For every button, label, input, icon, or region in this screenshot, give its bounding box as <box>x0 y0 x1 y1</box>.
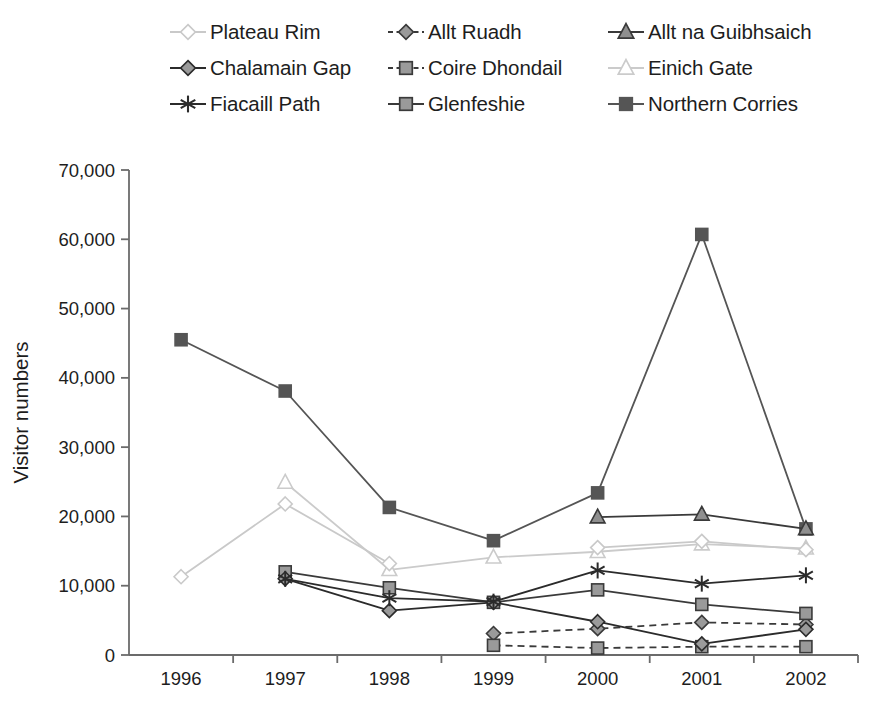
series-line <box>181 234 806 540</box>
data-point <box>592 642 604 654</box>
data-point <box>800 607 812 619</box>
y-tick-label: 40,000 <box>58 367 115 388</box>
data-point <box>174 570 188 584</box>
data-point <box>695 615 709 629</box>
y-tick-label: 20,000 <box>58 506 115 527</box>
x-tick-label: 2002 <box>785 668 826 689</box>
series-line <box>494 645 806 648</box>
series-allt-ruadh <box>487 615 813 640</box>
data-point <box>175 334 187 346</box>
data-point <box>488 639 500 651</box>
data-point <box>592 487 604 499</box>
data-point <box>800 641 812 653</box>
data-point <box>590 509 605 523</box>
data-point <box>696 228 708 240</box>
x-tick-label: 2001 <box>681 668 722 689</box>
y-tick-label: 60,000 <box>58 229 115 250</box>
data-point <box>592 584 604 596</box>
plot-area: 010,00020,00030,00040,00050,00060,00070,… <box>0 0 871 703</box>
data-point <box>278 474 293 488</box>
series-fiacaill-path <box>278 562 813 609</box>
data-point <box>278 497 292 511</box>
data-point <box>487 627 501 641</box>
y-axis-title: Visitor numbers <box>9 341 32 483</box>
x-tick-label: 1996 <box>160 668 201 689</box>
data-point <box>488 535 500 547</box>
series-allt-na-guibhsaich <box>590 506 813 534</box>
data-point <box>383 501 395 513</box>
x-tick-label: 1997 <box>265 668 306 689</box>
series-coire-dhondail <box>488 639 812 654</box>
series-line <box>285 579 806 644</box>
y-tick-label: 0 <box>105 645 115 666</box>
data-point <box>694 506 709 520</box>
series-line <box>285 482 806 569</box>
y-tick-label: 10,000 <box>58 575 115 596</box>
x-tick-label: 2000 <box>577 668 618 689</box>
series-line <box>494 622 806 633</box>
y-tick-label: 70,000 <box>58 160 115 181</box>
y-tick-label: 30,000 <box>58 437 115 458</box>
data-point <box>279 385 291 397</box>
data-point <box>696 598 708 610</box>
axes: 010,00020,00030,00040,00050,00060,00070,… <box>58 160 858 690</box>
x-tick-label: 1999 <box>473 668 514 689</box>
y-tick-label: 50,000 <box>58 298 115 319</box>
x-tick-label: 1998 <box>369 668 410 689</box>
series-einich-gate <box>278 474 813 575</box>
series-layer <box>174 228 813 654</box>
visitor-numbers-chart: Plateau Rim Allt Ruadh Allt na Guibhsaic… <box>0 0 871 703</box>
series-northern-corries <box>175 228 812 546</box>
